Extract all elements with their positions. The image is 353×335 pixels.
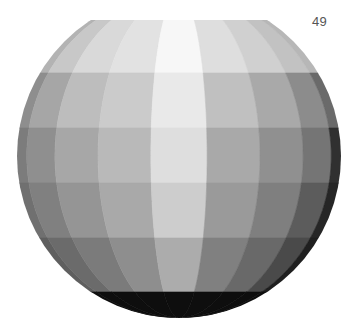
sphere-cell <box>151 183 206 238</box>
sphere-cell <box>0 128 29 183</box>
sphere-cell <box>99 183 155 238</box>
sphere-cell <box>27 128 57 183</box>
sphere-cell <box>151 73 206 128</box>
sphere-cell <box>203 183 259 238</box>
sphere-cell <box>207 128 260 183</box>
sphere-cell <box>301 128 331 183</box>
sphere-cell <box>98 128 151 183</box>
sphere-cell <box>203 73 259 128</box>
sphere-cell <box>329 128 353 183</box>
sphere-cell <box>151 128 207 183</box>
sphere-cell <box>99 73 155 128</box>
sphere-cell <box>259 128 303 183</box>
shaded-sphere-figure <box>0 0 353 335</box>
sphere-cells <box>0 20 353 320</box>
sphere-cell <box>55 128 99 183</box>
